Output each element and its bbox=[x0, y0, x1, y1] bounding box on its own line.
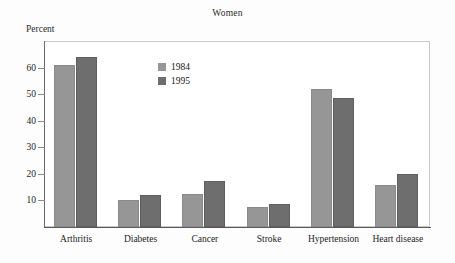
legend-item: 1984 bbox=[158, 60, 190, 74]
bar bbox=[333, 98, 354, 227]
x-axis-line bbox=[44, 227, 431, 228]
bar bbox=[182, 194, 203, 227]
bar bbox=[397, 174, 418, 227]
bar bbox=[311, 89, 332, 227]
legend-item: 1995 bbox=[158, 74, 190, 88]
y-axis-tick-label: 60 bbox=[2, 63, 36, 73]
bar bbox=[118, 200, 139, 227]
bar bbox=[204, 181, 225, 227]
legend-swatch-icon bbox=[158, 77, 166, 85]
legend-swatch-icon bbox=[158, 63, 166, 71]
x-axis-label: Heart disease bbox=[348, 234, 448, 244]
y-axis-tick-label: 40 bbox=[2, 116, 36, 126]
y-axis-tick-label: 50 bbox=[2, 89, 36, 99]
bar bbox=[269, 204, 290, 227]
chart-title: Women bbox=[0, 8, 455, 18]
y-axis-tick-label: 10 bbox=[2, 195, 36, 205]
bar bbox=[140, 195, 161, 227]
y-axis-tick-label: 30 bbox=[2, 142, 36, 152]
bars-layer bbox=[44, 41, 430, 227]
legend-label: 1984 bbox=[171, 62, 190, 72]
y-axis-label: Percent bbox=[26, 24, 55, 34]
y-axis-tick-label: 20 bbox=[2, 169, 36, 179]
bar bbox=[54, 65, 75, 227]
bar bbox=[247, 207, 268, 227]
legend-label: 1995 bbox=[171, 76, 190, 86]
legend: 19841995 bbox=[158, 60, 190, 88]
chart-page: Women Percent 102030405060 ArthritisDiab… bbox=[0, 0, 455, 263]
bar bbox=[76, 57, 97, 227]
bar bbox=[375, 185, 396, 227]
